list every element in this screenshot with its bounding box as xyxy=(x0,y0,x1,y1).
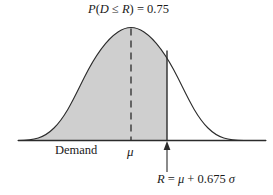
r-formula-sigma: σ xyxy=(229,172,235,186)
r-formula-plus: + xyxy=(187,172,194,186)
distribution-plot xyxy=(0,0,273,195)
r-arrow-head-icon xyxy=(164,141,171,150)
probability-d: D xyxy=(100,2,109,16)
mu-axis-label: μ xyxy=(127,145,134,158)
probability-p: P xyxy=(88,2,96,16)
probability-value: 0.75 xyxy=(147,2,169,16)
probability-label: P(D ≤ R) = 0.75 xyxy=(88,3,169,16)
r-formula-mu: μ xyxy=(178,172,184,186)
probability-close-paren: ) xyxy=(130,2,134,16)
r-formula-label: R = μ + 0.675 σ xyxy=(157,173,235,186)
probability-leq-icon: ≤ xyxy=(112,2,119,16)
shaded-probability-area xyxy=(18,28,266,142)
demand-axis-label: Demand xyxy=(55,144,97,157)
r-formula-coefficient: 0.675 xyxy=(198,172,226,186)
r-formula-r: R xyxy=(157,172,165,186)
probability-equals: = xyxy=(137,2,144,16)
r-formula-equals: = xyxy=(168,172,175,186)
probability-r: R xyxy=(122,2,130,16)
normal-distribution-figure: P(D ≤ R) = 0.75 Demand μ R = μ + 0.675 σ xyxy=(0,0,273,195)
